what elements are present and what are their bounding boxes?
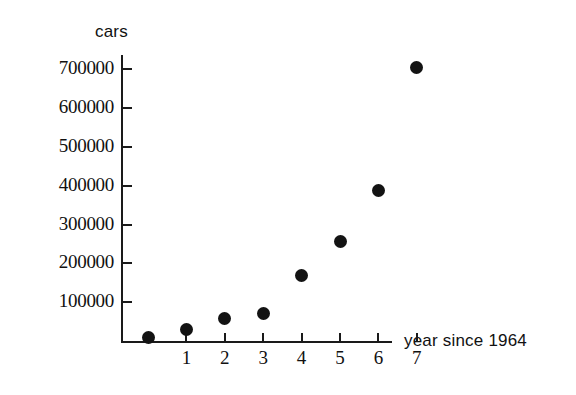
x-axis-tick [262,333,264,342]
y-axis-tick-label-text: 600000 [30,96,114,118]
y-axis-tick-label-text: 100000 [30,290,114,312]
data-point [410,61,423,74]
data-point [372,184,385,197]
data-point [142,331,155,344]
x-axis-tick-label: 7 [406,347,428,369]
y-axis-tick [123,68,132,70]
y-axis-tick-label-text: 300000 [30,213,114,235]
y-axis-tick-label: 200000 [30,251,114,273]
y-axis-tick-label: 700000 [30,57,114,79]
y-axis-tick-label-text: 200000 [30,251,114,273]
x-axis-tick-label: 6 [367,347,389,369]
data-point [180,323,193,336]
x-axis-tick [301,333,303,342]
y-axis-tick-label: 600000 [30,96,114,118]
y-axis-tick-label: 300000 [30,213,114,235]
y-axis-tick-label: 100000 [30,290,114,312]
y-axis-tick-label-text: 400000 [30,174,114,196]
data-point [257,307,270,320]
scatter-plot: cars year since 1964 1000002000003000004… [0,0,576,395]
y-axis-tick [123,146,132,148]
y-axis-tick [123,262,132,264]
data-point [334,235,347,248]
y-axis-line [121,55,123,343]
y-axis-tick-label: 400000 [30,174,114,196]
x-axis-tick [339,333,341,342]
x-axis-tick [377,333,379,342]
data-point [295,269,308,282]
y-axis-tick-label-text: 500000 [30,135,114,157]
y-axis-tick-label-text: 700000 [30,57,114,79]
x-axis-tick-label: 2 [214,347,236,369]
y-axis-tick [123,301,132,303]
x-axis-tick-label: 3 [252,347,274,369]
y-axis-title: cars [95,22,128,42]
x-axis-tick [224,333,226,342]
x-axis-line [121,341,392,343]
data-point [218,312,231,325]
y-axis-tick [123,224,132,226]
x-axis-tick-label: 1 [175,347,197,369]
x-axis-tick-label: 5 [329,347,351,369]
y-axis-tick [123,107,132,109]
y-axis-tick-label: 500000 [30,135,114,157]
y-axis-tick [123,185,132,187]
x-axis-tick-label: 4 [291,347,313,369]
x-axis-tick [416,333,418,342]
